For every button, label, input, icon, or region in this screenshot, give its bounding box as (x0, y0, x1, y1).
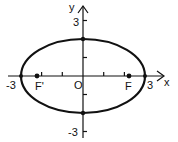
focus-left-point (35, 74, 40, 79)
x-pos-3-label: 3 (147, 79, 153, 91)
x-axis-label: x (164, 76, 170, 88)
y-neg-3-label: -3 (68, 126, 78, 138)
focus-right-point (127, 74, 132, 79)
y-axis-label: y (69, 1, 75, 13)
y-axis (78, 6, 88, 138)
focus-left-label: F' (35, 80, 44, 92)
x-axis (8, 71, 164, 81)
ellipse-diagram: y x O 3 -3 -3 3 F' F (0, 0, 178, 142)
x-neg-3-label: -3 (6, 79, 16, 91)
vertex-left-point (19, 74, 23, 78)
vertex-right-point (143, 74, 147, 78)
co-vertex-bottom-point (81, 111, 85, 115)
co-vertex-top-point (81, 37, 85, 41)
origin-label: O (74, 79, 83, 91)
focus-right-label: F (125, 80, 132, 92)
y-pos-3-label: 3 (73, 16, 79, 28)
